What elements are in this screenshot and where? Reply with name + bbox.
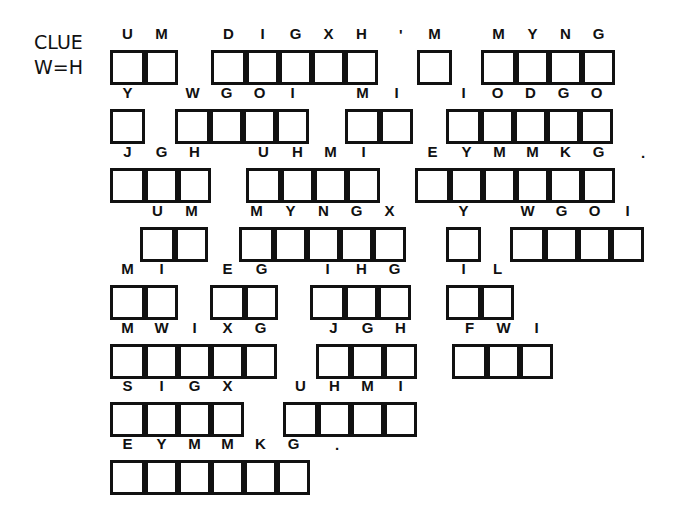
answer-cell[interactable]: M [176, 460, 211, 495]
answer-cell[interactable]: M [514, 168, 549, 203]
answer-cell[interactable]: U [110, 50, 145, 85]
answer-cell[interactable]: H [176, 168, 211, 203]
answer-cell[interactable]: L [479, 285, 514, 320]
answer-cell[interactable]: E [415, 168, 450, 203]
answer-cell[interactable]: I [446, 285, 481, 320]
answer-cell[interactable]: I [143, 402, 178, 437]
answer-cell[interactable]: M [417, 50, 452, 85]
answer-cell[interactable]: M [110, 344, 145, 379]
answer-cell[interactable]: O [479, 109, 514, 144]
cipher-letter: J [113, 143, 142, 160]
answer-cell[interactable]: H [343, 285, 378, 320]
answer-cell[interactable]: I [176, 344, 211, 379]
answer-cell[interactable]: M [345, 109, 380, 144]
answer-cell[interactable]: M [481, 50, 516, 85]
answer-cell[interactable]: M [239, 227, 274, 262]
answer-cell[interactable]: G [580, 168, 615, 203]
answer-cell[interactable]: I [310, 285, 345, 320]
answer-cell[interactable]: U [140, 227, 175, 262]
answer-cell[interactable]: X [310, 50, 345, 85]
answer-cell[interactable]: Y [514, 50, 549, 85]
answer-cell[interactable]: X [209, 344, 244, 379]
answer-cell[interactable]: G [543, 227, 578, 262]
answer-cell[interactable]: G [277, 50, 312, 85]
answer-cell[interactable]: H [279, 168, 314, 203]
answer-cell[interactable]: X [371, 227, 406, 262]
cipher-letter: J [319, 319, 348, 336]
cipher-letter: G [280, 435, 307, 452]
answer-cell[interactable]: G [545, 109, 580, 144]
answer-cell[interactable]: M [312, 168, 347, 203]
answer-cell[interactable]: U [246, 168, 281, 203]
answer-cell[interactable]: K [242, 460, 277, 495]
answer-cell[interactable]: H [382, 344, 417, 379]
answer-cell[interactable]: G [580, 50, 615, 85]
cipher-letter: Y [277, 202, 304, 219]
answer-cell[interactable]: G [275, 460, 310, 495]
answer-cell[interactable]: M [143, 50, 178, 85]
answer-cell[interactable]: Y [272, 227, 307, 262]
answer-cell[interactable]: O [576, 227, 611, 262]
answer-cell[interactable]: W [510, 227, 545, 262]
answer-cell[interactable]: I [244, 50, 279, 85]
answer-cell[interactable]: E [110, 460, 145, 495]
answer-cell[interactable]: H [343, 50, 378, 85]
answer-cell[interactable]: I [378, 109, 413, 144]
cipher-letter: W [490, 319, 517, 336]
answer-cell[interactable]: N [305, 227, 340, 262]
cipher-letter: H [284, 143, 311, 160]
word-group: EG [210, 285, 278, 320]
answer-cell[interactable]: G [176, 402, 211, 437]
word-group: WGOI [175, 109, 309, 144]
cipher-letter: E [213, 260, 242, 277]
answer-cell[interactable]: J [316, 344, 351, 379]
answer-cell[interactable]: I [143, 285, 178, 320]
answer-cell[interactable]: Y [448, 168, 483, 203]
answer-cell[interactable]: J [110, 168, 145, 203]
answer-cell[interactable]: Y [110, 109, 145, 144]
answer-cell[interactable]: E [210, 285, 245, 320]
answer-cell[interactable]: X [209, 402, 244, 437]
answer-cell[interactable]: N [547, 50, 582, 85]
cipher-letter: W [178, 84, 207, 101]
answer-cell[interactable]: W [143, 344, 178, 379]
answer-cell[interactable]: I [382, 402, 417, 437]
answer-cell[interactable]: I [274, 109, 309, 144]
answer-cell[interactable]: D [512, 109, 547, 144]
answer-cell[interactable]: S [110, 402, 145, 437]
answer-cell[interactable]: H [316, 402, 351, 437]
cipher-letter: G [247, 319, 274, 336]
answer-cell[interactable]: G [242, 344, 277, 379]
answer-cell[interactable]: G [349, 344, 384, 379]
answer-cell[interactable]: G [208, 109, 243, 144]
cipher-letter: G [343, 202, 370, 219]
answer-cell[interactable]: O [578, 109, 613, 144]
cipher-letter: M [519, 143, 546, 160]
answer-cell[interactable]: O [241, 109, 276, 144]
answer-cell[interactable]: G [338, 227, 373, 262]
answer-cell[interactable]: G [243, 285, 278, 320]
punctuation-mark: . [641, 144, 645, 161]
cipher-letter: D [517, 84, 544, 101]
answer-cell[interactable]: I [345, 168, 380, 203]
answer-cell[interactable]: Y [143, 460, 178, 495]
answer-cell[interactable]: I [609, 227, 644, 262]
answer-cell[interactable]: F [452, 344, 487, 379]
answer-cell[interactable]: U [283, 402, 318, 437]
answer-cell[interactable]: Y [446, 227, 481, 262]
answer-cell[interactable]: M [110, 285, 145, 320]
answer-cell[interactable]: I [518, 344, 553, 379]
answer-cell[interactable]: G [376, 285, 411, 320]
answer-cell[interactable]: G [143, 168, 178, 203]
answer-cell[interactable]: M [481, 168, 516, 203]
answer-cell[interactable]: W [175, 109, 210, 144]
cipher-letter: X [315, 25, 342, 42]
answer-cell[interactable]: K [547, 168, 582, 203]
answer-cell[interactable]: M [173, 227, 208, 262]
cipher-letter: Y [113, 84, 142, 101]
answer-cell[interactable]: M [349, 402, 384, 437]
answer-cell[interactable]: M [209, 460, 244, 495]
answer-cell[interactable]: I [446, 109, 481, 144]
answer-cell[interactable]: W [485, 344, 520, 379]
answer-cell[interactable]: D [211, 50, 246, 85]
